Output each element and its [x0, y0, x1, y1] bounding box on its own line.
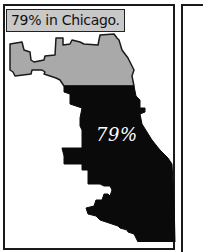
caption-box: 79% in Chicago.	[6, 9, 125, 32]
map-region-south	[62, 86, 175, 242]
map-region-north	[10, 34, 134, 86]
percent-label: 79%	[96, 124, 138, 145]
